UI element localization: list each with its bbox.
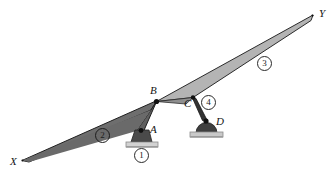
label-point-b: B (150, 85, 157, 96)
joint-dot-a (139, 128, 144, 133)
support-d-base-shadow (190, 136, 223, 138)
label-point-x: X (10, 156, 17, 167)
label-point-d: D (216, 116, 224, 127)
label-point-c: C (184, 98, 191, 109)
joint-dot-y (311, 14, 313, 16)
label-point-a: A (150, 124, 157, 135)
joint-dot-c (191, 95, 195, 99)
joint-dot-b (154, 99, 159, 104)
mechanism-figure: X Y B A C D 1 2 3 4 (0, 0, 332, 179)
support-d-body (196, 123, 217, 134)
label-point-y: Y (319, 8, 325, 19)
joint-dot-d (203, 118, 208, 123)
label-member-3: 3 (257, 56, 272, 71)
link-3-body (157, 15, 314, 102)
joint-dot-x (21, 159, 23, 161)
link-2-inner-shade (22, 110, 151, 162)
link-3-shape (157, 15, 314, 104)
label-member-2: 2 (95, 128, 110, 143)
mechanism-diagram-svg (0, 0, 332, 179)
label-member-1: 1 (134, 148, 149, 163)
label-member-4: 4 (201, 95, 216, 110)
